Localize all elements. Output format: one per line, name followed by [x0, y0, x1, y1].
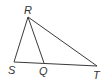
segment-ST	[14, 62, 97, 66]
segment-RT	[28, 17, 97, 66]
segment-RQ	[28, 17, 44, 63]
label-T: T	[93, 69, 101, 81]
segment-RS	[14, 17, 28, 62]
label-Q: Q	[39, 65, 48, 77]
label-S: S	[8, 64, 16, 76]
triangle-diagram: R S Q T	[0, 0, 104, 83]
label-R: R	[24, 4, 32, 16]
